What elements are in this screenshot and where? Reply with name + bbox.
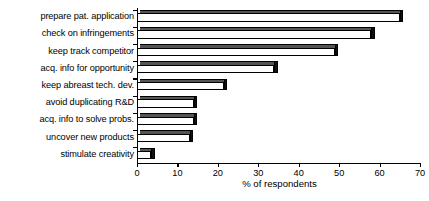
- category-label: check on infringements: [0, 28, 134, 38]
- bar: [137, 61, 278, 73]
- bar: [137, 96, 197, 108]
- x-axis-title: % of respondents: [137, 178, 422, 190]
- x-axis-tick: [258, 163, 259, 167]
- category-label: prepare pat. application: [0, 11, 134, 21]
- category-axis-labels: prepare pat. applicationcheck on infring…: [0, 8, 134, 163]
- x-axis-tick: [339, 163, 340, 167]
- bar-chart: prepare pat. applicationcheck on infring…: [0, 0, 429, 201]
- category-label: avoid duplicating R&D: [0, 97, 134, 107]
- bar-end-cap: [400, 10, 403, 22]
- bar-end-cap: [190, 130, 193, 142]
- bar-end-cap: [194, 96, 197, 108]
- bar-front-face: [137, 30, 371, 38]
- category-label: keep abreast tech. dev.: [0, 80, 134, 90]
- bar-front-face: [137, 82, 224, 90]
- bar-end-cap: [371, 27, 374, 39]
- x-axis-tick: [299, 163, 300, 167]
- bar-front-face: [137, 134, 190, 142]
- category-label: stimulate creativity: [0, 149, 134, 159]
- x-axis-tick: [177, 163, 178, 167]
- bar-end-cap: [194, 113, 197, 125]
- x-axis-line: [137, 163, 420, 164]
- bar-front-face: [137, 117, 194, 125]
- bar: [137, 130, 193, 142]
- bar-end-cap: [151, 148, 154, 160]
- category-label: acq. info for opportunity: [0, 63, 134, 73]
- bar: [137, 10, 403, 22]
- bar: [137, 79, 227, 91]
- bar-front-face: [137, 13, 400, 21]
- plot-area: 010203040506070: [137, 8, 422, 163]
- bar-front-face: [137, 151, 151, 159]
- bar-end-cap: [335, 44, 338, 56]
- x-axis-tick: [420, 163, 421, 167]
- category-label: keep track competitor: [0, 46, 134, 56]
- x-axis-tick: [218, 163, 219, 167]
- category-label: uncover new products: [0, 132, 134, 142]
- bar: [137, 27, 375, 39]
- bar: [137, 113, 197, 125]
- x-axis-tick: [380, 163, 381, 167]
- category-label: acq. info to solve probs.: [0, 114, 134, 124]
- bar: [137, 44, 339, 56]
- x-axis-tick: [137, 163, 138, 167]
- bar-end-cap: [274, 61, 277, 73]
- bar: [137, 148, 155, 160]
- bar-front-face: [137, 48, 335, 56]
- bar-front-face: [137, 65, 274, 73]
- bar-end-cap: [224, 79, 227, 91]
- bar-front-face: [137, 99, 194, 107]
